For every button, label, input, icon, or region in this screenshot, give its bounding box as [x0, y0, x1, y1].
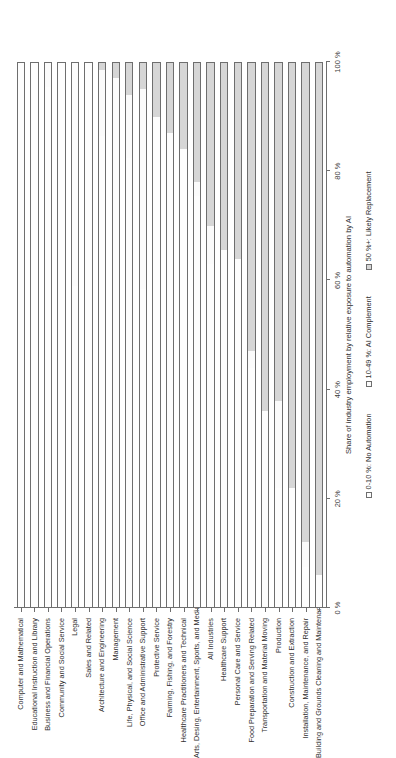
- bar-segment-ai-complement: [301, 543, 309, 568]
- rotated-figure-wrapper: Computer and MathematicalEducational Ins…: [0, 0, 396, 758]
- bar: [220, 62, 228, 608]
- bar-segment-ai-complement: [44, 62, 52, 87]
- bar-segment-ai-complement: [247, 351, 255, 367]
- bar: [247, 62, 255, 608]
- bar-segment-ai-complement: [193, 182, 201, 196]
- x-axis-tick-label: 20 %: [333, 490, 342, 507]
- bar-row: [272, 62, 286, 608]
- y-axis-tick: [251, 608, 252, 612]
- bar-segment-likely-replacement: [112, 62, 120, 78]
- bar-segment-no-automation: [98, 136, 106, 608]
- category-label: Building and Grounds Cleaning and Mainte…: [312, 612, 326, 758]
- bar-segment-no-automation: [274, 488, 282, 608]
- category-label: Community and Social Service: [55, 612, 69, 758]
- bar-segment-no-automation: [234, 259, 242, 608]
- x-axis-tick-label: 0 %: [333, 602, 342, 615]
- bar: [179, 62, 187, 608]
- bar-segment-no-automation: [30, 62, 38, 608]
- bar: [30, 62, 38, 608]
- bar: [301, 62, 309, 608]
- y-axis-tick: [238, 608, 239, 612]
- bar-segment-no-automation: [17, 62, 25, 608]
- x-axis-tick: [326, 170, 330, 171]
- category-label: Food Preparation and Serving Related: [245, 612, 259, 758]
- y-axis-tick: [143, 608, 144, 612]
- bar-row: [136, 62, 150, 608]
- bar-segment-ai-complement: [139, 89, 147, 288]
- y-axis-tick: [319, 608, 320, 612]
- bar-segment-likely-replacement: [234, 62, 242, 259]
- y-axis-tick: [211, 608, 212, 612]
- bar: [57, 62, 65, 608]
- category-label: Personal Care and Service: [231, 612, 245, 758]
- category-label: Production: [272, 612, 286, 758]
- y-axis-tick: [116, 608, 117, 612]
- bar-row: [217, 62, 231, 608]
- stacked-bars: [14, 62, 326, 608]
- bar-segment-ai-complement: [98, 70, 106, 136]
- bar-row: [299, 62, 313, 608]
- bar-segment-likely-replacement: [179, 62, 187, 149]
- bar-segment-likely-replacement: [288, 62, 296, 488]
- bar-segment-likely-replacement: [166, 62, 174, 133]
- x-axis-tick: [326, 498, 330, 499]
- x-axis-title: Share of industry employment by relative…: [344, 62, 353, 608]
- legend-item[interactable]: 50 %+: Likely Replacement: [364, 172, 373, 271]
- bar-segment-likely-replacement: [261, 62, 269, 411]
- y-axis-tick: [306, 608, 307, 612]
- bar-segment-ai-complement: [125, 95, 133, 158]
- bar-row: [177, 62, 191, 608]
- bar: [234, 62, 242, 608]
- category-label: Computer and Mathematical: [14, 612, 28, 758]
- bar-segment-likely-replacement: [220, 62, 228, 250]
- bar-segment-no-automation: [315, 575, 323, 608]
- plot-area: [14, 62, 326, 608]
- legend-swatch-icon: [366, 264, 372, 270]
- bar: [288, 62, 296, 608]
- bar-segment-no-automation: [179, 149, 187, 608]
- y-axis-tick: [48, 608, 49, 612]
- bar-segment-no-automation: [44, 87, 52, 608]
- category-label: Office and Administrative Support: [136, 612, 150, 758]
- y-axis-tick: [34, 608, 35, 612]
- y-axis-tick: [129, 608, 130, 612]
- x-axis-tick: [326, 607, 330, 608]
- bar-row: [204, 62, 218, 608]
- category-label: Life, Physical, and Social Science: [123, 612, 137, 758]
- bar-segment-no-automation: [84, 62, 92, 608]
- bar: [152, 62, 160, 608]
- bar-segment-likely-replacement: [315, 62, 323, 575]
- category-label: Farming, Fishing, and Forestry: [163, 612, 177, 758]
- bar-row: [68, 62, 82, 608]
- x-axis-tick-label: 60 %: [333, 272, 342, 289]
- bar-segment-likely-replacement: [193, 62, 201, 182]
- bar-segment-no-automation: [206, 264, 214, 608]
- category-label: Management: [109, 612, 123, 758]
- legend-item[interactable]: 10-49 %: AI Complement: [364, 296, 373, 387]
- bar-row: [285, 62, 299, 608]
- bar-segment-no-automation: [220, 250, 228, 608]
- bar-row: [82, 62, 96, 608]
- bar-row: [123, 62, 137, 608]
- y-axis-tick: [170, 608, 171, 612]
- bar-segment-likely-replacement: [247, 62, 255, 351]
- bar-row: [231, 62, 245, 608]
- chart-legend: 0-10 %: No Automation10-49 %: AI Complem…: [364, 62, 373, 608]
- bar-row: [28, 62, 42, 608]
- category-label: Architecture and Engineering: [95, 612, 109, 758]
- bar-segment-ai-complement: [274, 401, 282, 488]
- category-label: Arts, Desing, Entertainment, Sports, and…: [190, 612, 204, 758]
- y-axis-tick: [61, 608, 62, 612]
- y-axis-tick: [197, 608, 198, 612]
- x-axis-tick: [326, 389, 330, 390]
- bar: [112, 62, 120, 608]
- y-axis-tick: [75, 608, 76, 612]
- legend-item[interactable]: 0-10 %: No Automation: [364, 413, 373, 498]
- y-axis-tick: [292, 608, 293, 612]
- bar-segment-likely-replacement: [206, 62, 214, 226]
- bar-segment-likely-replacement: [98, 62, 106, 70]
- category-label: Construction and Extraction: [285, 612, 299, 758]
- bar-row: [95, 62, 109, 608]
- y-axis-tick: [21, 608, 22, 612]
- x-axis-tick: [326, 279, 330, 280]
